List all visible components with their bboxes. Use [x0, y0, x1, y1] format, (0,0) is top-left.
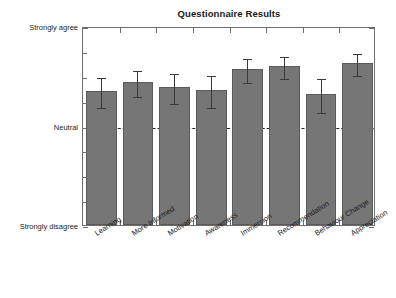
bar[interactable]: [86, 91, 117, 225]
chart-figure: Questionnaire Results Strongly agreeNeut…: [0, 0, 396, 298]
bar[interactable]: [232, 69, 263, 225]
bar[interactable]: [269, 66, 300, 225]
y-axis-minor-tick: [83, 53, 87, 54]
bar-slot: [342, 28, 373, 225]
x-axis-tick-top: [230, 28, 231, 33]
x-axis-tick-top: [303, 28, 304, 33]
error-bar-cap-lower: [97, 108, 106, 109]
y-axis-tick-label: Strongly disagree: [0, 222, 78, 231]
y-axis-tick-label: Strongly agree: [0, 23, 78, 32]
error-bar-cap-lower: [243, 83, 252, 84]
error-bar-cap-lower: [170, 104, 179, 105]
bar-slot: [269, 28, 300, 225]
y-axis-minor-tick: [83, 177, 87, 178]
x-axis-tick-top: [193, 28, 194, 33]
error-bar-cap-upper: [243, 59, 252, 60]
error-bar: [174, 74, 175, 104]
chart-title: Questionnaire Results: [82, 8, 376, 19]
bar-slot: [159, 28, 190, 225]
error-bar-cap-lower: [353, 76, 362, 77]
error-bar-cap-upper: [280, 57, 289, 58]
error-bar: [247, 59, 248, 83]
error-bar: [137, 71, 138, 97]
y-axis-tick: [83, 128, 88, 129]
plot-area: [82, 27, 375, 226]
y-axis-tick: [83, 227, 88, 228]
bar-slot: [306, 28, 337, 225]
error-bar-cap-lower: [280, 79, 289, 80]
error-bar-cap-lower: [317, 113, 326, 114]
y-axis-minor-tick: [83, 78, 87, 79]
error-bar: [284, 57, 285, 79]
bar[interactable]: [196, 90, 227, 225]
error-bar-cap-upper: [207, 76, 216, 77]
y-axis-tick: [83, 28, 88, 29]
error-bar-cap-upper: [97, 78, 106, 79]
y-axis-minor-tick: [83, 103, 87, 104]
y-axis-minor-tick: [83, 152, 87, 153]
bar[interactable]: [123, 82, 154, 225]
y-axis-tick-label: Neutral: [0, 122, 78, 131]
error-bar: [101, 78, 102, 108]
x-axis-tick-top: [156, 28, 157, 33]
error-bar-cap-upper: [317, 79, 326, 80]
bar-series-layer: [83, 28, 374, 225]
y-axis-tick-right: [369, 28, 374, 29]
bar[interactable]: [159, 87, 190, 225]
x-axis-tick-top: [339, 28, 340, 33]
x-axis-tick-top: [266, 28, 267, 33]
error-bar-cap-lower: [133, 97, 142, 98]
x-axis-tick-top: [120, 28, 121, 33]
bar-slot: [196, 28, 227, 225]
y-axis-tick-right: [369, 128, 374, 129]
bar-slot: [123, 28, 154, 225]
y-axis-minor-tick: [83, 202, 87, 203]
bar-slot: [232, 28, 263, 225]
bar-slot: [86, 28, 117, 225]
error-bar-cap-upper: [353, 54, 362, 55]
error-bar: [321, 79, 322, 113]
error-bar-cap-upper: [133, 71, 142, 72]
error-bar-cap-lower: [207, 108, 216, 109]
error-bar: [211, 76, 212, 108]
error-bar-cap-upper: [170, 74, 179, 75]
error-bar: [357, 54, 358, 76]
